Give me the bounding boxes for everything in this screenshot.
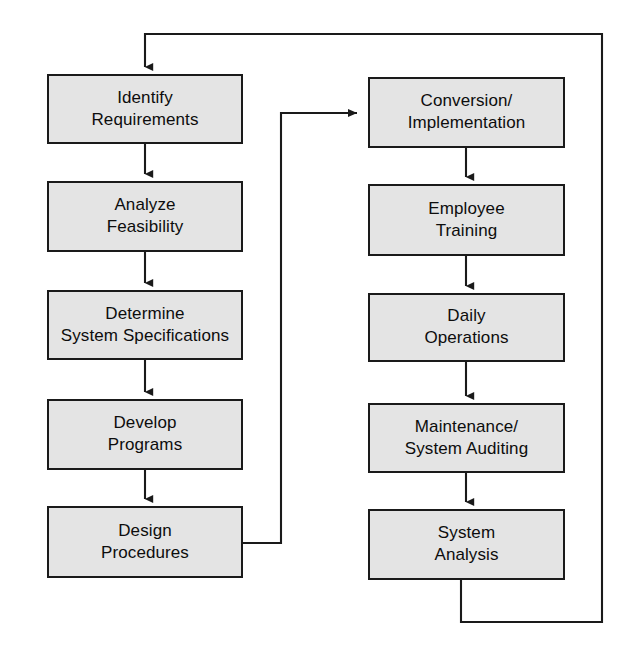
node-label-line1: Daily bbox=[447, 306, 485, 327]
node-label-line2: Operations bbox=[424, 328, 508, 349]
node-conversion-implementation[interactable]: Conversion/ Implementation bbox=[368, 77, 565, 148]
node-label-line2: Requirements bbox=[91, 110, 198, 131]
node-label-line1: Maintenance/ bbox=[415, 417, 518, 438]
node-label-line1: Conversion/ bbox=[421, 91, 513, 112]
node-label-line2: System Auditing bbox=[405, 439, 528, 460]
node-employee-training[interactable]: Employee Training bbox=[368, 184, 565, 256]
node-label-line2: System Specifications bbox=[61, 326, 229, 347]
node-system-analysis[interactable]: System Analysis bbox=[368, 509, 565, 580]
node-label-line1: Employee bbox=[428, 199, 504, 220]
node-label-line2: Training bbox=[436, 221, 498, 242]
node-label-line2: Procedures bbox=[101, 543, 189, 564]
node-label-line1: Develop bbox=[113, 413, 176, 434]
node-label-line2: Implementation bbox=[408, 113, 526, 134]
node-daily-operations[interactable]: Daily Operations bbox=[368, 293, 565, 362]
node-label-line1: Design bbox=[118, 521, 172, 542]
node-identify-requirements[interactable]: Identify Requirements bbox=[47, 74, 243, 144]
node-label-line2: Feasibility bbox=[107, 217, 184, 238]
connector-design-to-conversion bbox=[240, 113, 357, 543]
node-label-line2: Analysis bbox=[434, 545, 498, 566]
node-maintenance-system-auditing[interactable]: Maintenance/ System Auditing bbox=[368, 403, 565, 473]
flowchart-diagram: Identify Requirements Analyze Feasibilit… bbox=[0, 0, 633, 649]
node-label-line2: Programs bbox=[108, 435, 183, 456]
node-label-line1: System bbox=[438, 523, 495, 544]
node-label-line1: Identify bbox=[117, 88, 173, 109]
node-design-procedures[interactable]: Design Procedures bbox=[47, 506, 243, 578]
node-determine-system-specifications[interactable]: Determine System Specifications bbox=[47, 290, 243, 360]
node-label-line1: Determine bbox=[105, 304, 184, 325]
node-analyze-feasibility[interactable]: Analyze Feasibility bbox=[47, 181, 243, 252]
node-develop-programs[interactable]: Develop Programs bbox=[47, 399, 243, 470]
node-label-line1: Analyze bbox=[114, 195, 175, 216]
